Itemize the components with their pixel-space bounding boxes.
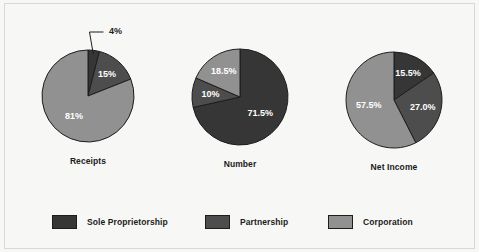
pie-slice-label: 15.5% bbox=[395, 68, 421, 78]
pie-chart-title-net-income: Net Income bbox=[320, 162, 468, 172]
pie-slice-label: 4% bbox=[109, 26, 122, 36]
legend-item-corporation: Corporation bbox=[328, 215, 413, 229]
pie-slice-label: 15% bbox=[98, 69, 116, 79]
pie-slice-label: 81% bbox=[65, 111, 83, 121]
legend-swatch-icon bbox=[52, 215, 77, 229]
legend-label: Corporation bbox=[363, 217, 413, 227]
pie-slice-label: 27.0% bbox=[410, 102, 436, 112]
pie-slice-label: 71.5% bbox=[247, 108, 273, 118]
legend-swatch-icon bbox=[205, 215, 230, 229]
pie-chart-title-receipts: Receipts bbox=[16, 156, 160, 166]
pie-slice-label: 10% bbox=[201, 89, 219, 99]
legend-swatch-icon bbox=[328, 215, 353, 229]
legend-item-partnership: Partnership bbox=[205, 215, 288, 229]
pie-slice-label: 18.5% bbox=[211, 66, 237, 76]
legend-label: Partnership bbox=[240, 217, 288, 227]
legend-item-sole-proprietorship: Sole Proprietorship bbox=[52, 215, 168, 229]
pie-chart-number: 71.5%10%18.5%Number bbox=[166, 23, 314, 171]
legend-label: Sole Proprietorship bbox=[87, 217, 168, 227]
pie-slice-label: 57.5% bbox=[356, 100, 382, 110]
pie-chart-net-income: 15.5%27.0%57.5%Net Income bbox=[320, 26, 468, 174]
pie-chart-title-number: Number bbox=[166, 159, 314, 169]
pie-chart-receipts: 4%15%81%Receipts bbox=[16, 24, 160, 168]
chart-legend: Sole ProprietorshipPartnershipCorporatio… bbox=[0, 207, 479, 237]
pie-chart-figure: 4%15%81%Receipts71.5%10%18.5%Number15.5%… bbox=[0, 0, 479, 252]
